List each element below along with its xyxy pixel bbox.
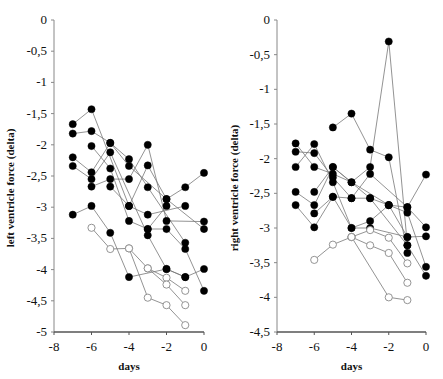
filled-data-point bbox=[200, 218, 207, 225]
filled-data-point bbox=[144, 141, 151, 148]
filled-data-point bbox=[348, 224, 355, 231]
open-data-point bbox=[163, 302, 170, 309]
filled-data-point bbox=[144, 211, 151, 218]
filled-data-point bbox=[88, 176, 95, 183]
filled-data-point bbox=[311, 188, 318, 195]
filled-data-point bbox=[163, 265, 170, 272]
series-line bbox=[129, 248, 185, 325]
y-tick-label: -3,5 bbox=[26, 230, 47, 245]
y-tick-label: -3 bbox=[36, 199, 47, 214]
filled-data-point bbox=[182, 273, 189, 280]
filled-data-point bbox=[107, 165, 114, 172]
series-line bbox=[110, 165, 204, 206]
open-data-point bbox=[404, 279, 411, 286]
filled-data-point bbox=[88, 169, 95, 176]
filled-data-point bbox=[311, 163, 318, 170]
filled-data-point bbox=[88, 202, 95, 209]
y-tick-label: -1,5 bbox=[249, 116, 270, 131]
y-tick-label: -2 bbox=[259, 151, 270, 166]
filled-data-point bbox=[69, 211, 76, 218]
series-line bbox=[92, 145, 205, 222]
filled-data-point bbox=[329, 124, 336, 131]
filled-data-point bbox=[163, 202, 170, 209]
filled-data-point bbox=[292, 163, 299, 170]
filled-data-point bbox=[69, 162, 76, 169]
y-tick-label: -2,5 bbox=[26, 168, 47, 183]
filled-data-point bbox=[144, 162, 151, 169]
filled-data-point bbox=[348, 179, 355, 186]
filled-data-point bbox=[367, 195, 374, 202]
y-tick-label: -3,5 bbox=[249, 255, 270, 270]
y-tick-label: -4,5 bbox=[26, 293, 47, 308]
y-tick-label: -5 bbox=[36, 324, 47, 339]
filled-data-point bbox=[182, 245, 189, 252]
open-data-point bbox=[107, 245, 114, 252]
filled-data-point bbox=[144, 225, 151, 232]
filled-data-point bbox=[163, 217, 170, 224]
right-ventricle-chart: 0-0,5-1-1,5-2-2,5-3-3,5-4-4,5-8-6-4-20da… bbox=[228, 12, 430, 372]
filled-data-point bbox=[404, 249, 411, 256]
y-tick-label: -0,5 bbox=[249, 47, 270, 62]
open-data-point bbox=[348, 233, 355, 240]
open-data-point bbox=[125, 245, 132, 252]
filled-data-point bbox=[292, 140, 299, 147]
filled-data-point bbox=[311, 202, 318, 209]
open-data-point bbox=[144, 294, 151, 301]
filled-data-point bbox=[107, 149, 114, 156]
y-tick-label: -4,5 bbox=[249, 324, 270, 339]
open-data-point bbox=[163, 281, 170, 288]
filled-data-point bbox=[329, 163, 336, 170]
y-tick-label: -2,5 bbox=[249, 185, 270, 200]
x-tick-label: -4 bbox=[124, 339, 135, 354]
filled-data-point bbox=[385, 154, 392, 161]
series-line bbox=[92, 228, 186, 291]
x-tick-label: -8 bbox=[272, 339, 283, 354]
filled-data-point bbox=[125, 162, 132, 169]
x-tick-label: -6 bbox=[86, 339, 97, 354]
filled-data-point bbox=[404, 204, 411, 211]
filled-data-point bbox=[144, 184, 151, 191]
filled-data-point bbox=[292, 188, 299, 195]
filled-data-point bbox=[182, 184, 189, 191]
open-data-point bbox=[182, 322, 189, 329]
filled-data-point bbox=[422, 272, 429, 279]
filled-data-point bbox=[125, 202, 132, 209]
filled-data-point bbox=[422, 171, 429, 178]
y-tick-label: -2 bbox=[36, 137, 47, 152]
left-ventricle-chart: 0-0,5-1-1,5-2-2,5-3-3,5-4-4,5-5-8-6-4-20… bbox=[4, 12, 208, 372]
filled-data-point bbox=[125, 176, 132, 183]
filled-data-point bbox=[367, 163, 374, 170]
filled-data-point bbox=[311, 150, 318, 157]
filled-data-point bbox=[367, 146, 374, 153]
filled-data-point bbox=[88, 183, 95, 190]
open-data-point bbox=[404, 297, 411, 304]
filled-data-point bbox=[348, 110, 355, 117]
filled-data-point bbox=[125, 273, 132, 280]
series-line bbox=[314, 230, 407, 263]
y-axis-label: right ventricle force (delta) bbox=[228, 124, 241, 251]
y-tick-label: -0,5 bbox=[26, 43, 47, 58]
filled-data-point bbox=[311, 141, 318, 148]
filled-data-point bbox=[422, 263, 429, 270]
filled-data-point bbox=[107, 183, 114, 190]
filled-data-point bbox=[200, 287, 207, 294]
y-tick-label: 0 bbox=[41, 12, 48, 27]
filled-data-point bbox=[329, 193, 336, 200]
filled-data-point bbox=[404, 233, 411, 240]
x-tick-label: -8 bbox=[49, 339, 60, 354]
x-tick-label: 0 bbox=[201, 339, 208, 354]
filled-data-point bbox=[348, 195, 355, 202]
filled-data-point bbox=[422, 233, 429, 240]
filled-data-point bbox=[69, 130, 76, 137]
x-axis-label: days bbox=[118, 360, 140, 372]
x-tick-label: -2 bbox=[161, 339, 172, 354]
open-data-point bbox=[385, 294, 392, 301]
open-data-point bbox=[404, 260, 411, 267]
filled-data-point bbox=[311, 224, 318, 231]
open-data-point bbox=[385, 249, 392, 256]
x-tick-label: -6 bbox=[309, 339, 320, 354]
open-data-point bbox=[163, 274, 170, 281]
open-data-point bbox=[329, 241, 336, 248]
filled-data-point bbox=[385, 202, 392, 209]
filled-data-point bbox=[107, 139, 114, 146]
